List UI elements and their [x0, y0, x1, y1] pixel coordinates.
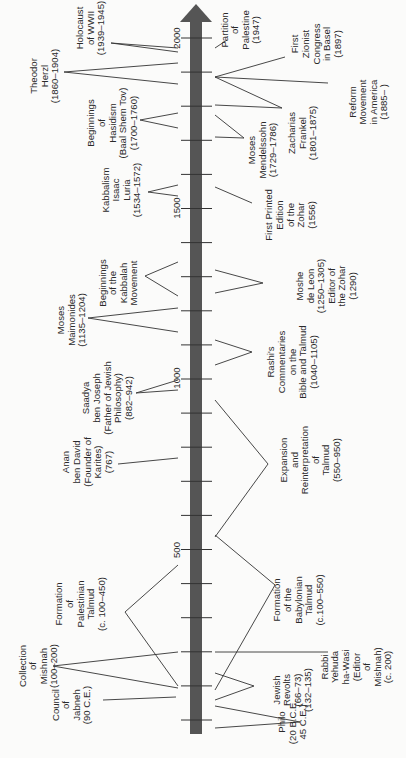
event-label-babylonian-talmud: Formationof theBabylonianTalmud(c.100–55… [271, 574, 324, 625]
event-label-line: (1290) [347, 272, 358, 300]
event-label-partition: PartitionofPalestine(1947) [219, 10, 262, 49]
event-label-line: Kabbalah [118, 263, 129, 304]
event-label-line: Anan [60, 451, 71, 473]
connector-anan [118, 458, 178, 464]
event-label-line: (1860–1904) [49, 49, 60, 103]
event-label-line: Reform [347, 86, 358, 117]
event-label-line: (1801–1875) [307, 106, 318, 160]
event-label-line: of [27, 662, 38, 670]
connector-expansion [215, 400, 268, 537]
event-label-line: of the [107, 271, 118, 295]
event-label-line: on the [287, 349, 298, 376]
connector-herzl [64, 63, 178, 84]
event-label-line: Talmud [303, 585, 314, 616]
event-label-line: Formation [271, 578, 282, 621]
event-label-line: Moses [55, 306, 66, 334]
connector-luria [148, 185, 178, 196]
event-label-line: Commentaries [276, 331, 287, 394]
event-label-line: of [60, 701, 71, 709]
event-label-line: Editor of [326, 268, 337, 304]
event-label-line: Rabbi [319, 654, 330, 679]
connector-maimonides [88, 308, 178, 332]
event-label-line: (1534–1572) [131, 163, 142, 217]
event-label-line: Edition [274, 200, 285, 229]
event-label-line: and [289, 452, 300, 468]
event-label-yehuda: RabbiYehudaha-Wasi(EditorofMishnah)(c. 2… [319, 647, 394, 686]
event-label-line: (1556) [306, 201, 317, 229]
axis-bar [190, 18, 202, 734]
event-label-kabbalah: Beginningsof theKabbalahMovement [97, 259, 140, 307]
event-label-line: Saadya [80, 381, 91, 414]
event-label-line: (1135–1204) [76, 293, 87, 347]
event-label-line: Palestine [240, 10, 251, 49]
event-label-line: Talmud [320, 445, 331, 476]
event-label-line: (882–942) [123, 376, 134, 420]
event-label-line: Formation [53, 582, 64, 625]
event-label-line: Partition [219, 12, 230, 47]
tick-label-500: 500 [171, 542, 182, 558]
connector-de-leon [215, 270, 263, 293]
event-label-line: Mishnah) [372, 647, 383, 686]
event-label-line: (550–950) [331, 438, 342, 482]
event-label-zohar-print: First PrintedEditionof theZohar(1556) [263, 189, 316, 241]
event-label-line: Movement [128, 260, 139, 305]
connector-revolts [215, 673, 254, 700]
event-label-line: of the [285, 203, 296, 227]
event-label-line: Holocaust [74, 6, 85, 49]
event-label-line: Philosophy) [112, 373, 123, 423]
event-label-line: Isaac [110, 178, 121, 201]
event-label-line: (100–200) [48, 644, 59, 688]
event-label-line: the Zohar [336, 265, 347, 307]
event-label-de-leon: Moshede Leon(1250–1305)Editor ofthe Zoha… [294, 259, 358, 313]
event-label-line: Movement [357, 79, 368, 124]
tick-label-2000: 2000 [171, 27, 182, 48]
event-label-line: Collection [17, 645, 28, 687]
event-label-line: First [289, 34, 300, 53]
event-label-line: Maimonides [66, 294, 77, 346]
event-label-line: Jabneh [71, 689, 82, 720]
event-label-line: Zionist [300, 30, 311, 59]
event-label-line: Expansion [278, 438, 289, 483]
event-label-line: (20 B.C.E. [287, 700, 298, 744]
connector-palestinian-talmud [125, 565, 178, 686]
event-label-line: (767) [103, 451, 114, 473]
event-label-line: (Founder of [82, 437, 93, 487]
event-label-palestinian-talmud: FormationofPalestinianTalmud(c. 100–450) [53, 577, 106, 631]
event-label-line: Yehuda [329, 650, 340, 683]
event-label-line: (Baal Shem Tov) [117, 88, 128, 159]
connector-jabneh [103, 697, 176, 700]
event-label-line: Luria [121, 179, 132, 201]
tick-label-1000: 1000 [171, 367, 182, 388]
event-label-line: Moses [246, 136, 257, 164]
connector-zohar-print [215, 187, 252, 203]
event-label-line: of [310, 456, 321, 464]
event-label-line: 45 C.E.) [297, 704, 308, 739]
event-label-line: Herzl [39, 65, 50, 87]
event-label-line: (90 C.E.) [81, 686, 92, 724]
event-label-line: in Basel [321, 27, 332, 61]
event-label-line: of [64, 600, 75, 608]
event-label-line: de Leon [305, 269, 316, 304]
event-label-line: of the [282, 588, 293, 612]
event-label-line: in America [368, 79, 379, 124]
event-label-line: Palestinian [75, 581, 86, 628]
event-label-line: Kabbalism [100, 168, 111, 213]
event-label-expansion: ExpansionandReinterpretationofTalmud(550… [278, 426, 342, 494]
event-label-line: of WWII [85, 11, 96, 45]
event-label-hasidism: BeginningsofHasidism(Baal Shem Tov)(1700… [85, 88, 138, 159]
event-label-line: ha-Wasi [340, 650, 351, 685]
connector-frankel [215, 77, 282, 108]
event-label-line: of [96, 119, 107, 127]
event-label-reform: ReformMovementin America(1885– ) [347, 79, 390, 124]
event-label-frankel: ZachariasFrankel(1801–1875) [286, 106, 318, 160]
event-label-line: Rashi's [265, 346, 276, 377]
event-label-line: Mishnah [38, 648, 49, 684]
time-axis [180, 4, 212, 734]
event-label-anan: Ananben David(Founder ofKarites)(767) [60, 437, 113, 487]
event-label-line: Babylonian [293, 576, 304, 623]
event-label-line: Philo [276, 711, 287, 732]
connector-hasidism [140, 113, 178, 128]
event-label-line: ben Joseph [91, 373, 102, 423]
event-label-line: (c. 100–450) [96, 577, 107, 631]
event-label-line: Karites) [92, 445, 103, 478]
